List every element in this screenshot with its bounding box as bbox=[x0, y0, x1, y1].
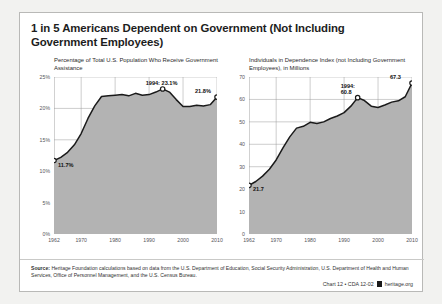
x-tick-label: 2000 bbox=[372, 237, 384, 243]
area-fill bbox=[249, 83, 412, 234]
chart-number: Chart 12 • CDA 12-02 bbox=[323, 281, 374, 287]
chart-svg bbox=[249, 77, 412, 234]
x-tick-label: 1962 bbox=[48, 237, 60, 243]
x-tick-label: 1980 bbox=[109, 237, 121, 243]
y-tick-label: 50 bbox=[239, 119, 245, 125]
data-annotation: 11.7% bbox=[58, 162, 74, 169]
area-fill bbox=[54, 89, 217, 234]
data-annotation: 67.3 bbox=[390, 74, 401, 81]
y-tick-label: 25% bbox=[40, 74, 50, 80]
x-tick-label: 1990 bbox=[143, 237, 155, 243]
x-tick-label: 1990 bbox=[338, 237, 350, 243]
y-tick-label: 40 bbox=[239, 141, 245, 147]
chart-credit: Chart 12 • CDA 12-02 heritage.org bbox=[323, 281, 413, 287]
y-tick-label: 5% bbox=[43, 200, 51, 206]
y-tick-label: 70 bbox=[239, 74, 245, 80]
y-tick-label: 10 bbox=[239, 209, 245, 215]
y-tick-label: 20 bbox=[239, 186, 245, 192]
source-note: Source: Heritage Foundation calculations… bbox=[31, 265, 411, 279]
data-annotation: 1994: 23.1% bbox=[146, 80, 178, 87]
data-point-marker bbox=[249, 183, 251, 187]
individuals-chart-panel: Individuals in Dependence Index (not Inc… bbox=[225, 57, 417, 257]
data-annotation: 1994:60.8 bbox=[341, 83, 355, 96]
y-tick-label: 10% bbox=[40, 168, 50, 174]
x-tick-label: 2010 bbox=[211, 237, 223, 243]
data-point-marker bbox=[215, 95, 217, 99]
page-background: 1 in 5 Americans Dependent on Government… bbox=[0, 0, 442, 304]
percentage-chart-plot: 11.7%1994: 23.1%21.8% bbox=[54, 77, 217, 234]
individuals-chart-x-axis: 196219701980199020002010 bbox=[249, 237, 412, 249]
x-tick-label: 1970 bbox=[75, 237, 87, 243]
heritage-site-label: heritage.org bbox=[385, 281, 413, 287]
page-title: 1 in 5 Americans Dependent on Government… bbox=[31, 22, 391, 49]
charts-container: Percentage of Total U.S. Population Who … bbox=[20, 57, 424, 257]
x-tick-label: 1962 bbox=[243, 237, 255, 243]
data-point-marker bbox=[355, 95, 359, 99]
individuals-chart-plot: 21.71994:60.867.3 bbox=[249, 77, 412, 234]
x-tick-label: 1970 bbox=[270, 237, 282, 243]
percentage-chart-subtitle: Percentage of Total U.S. Population Who … bbox=[54, 57, 219, 72]
source-text: Heritage Foundation calculations based o… bbox=[31, 265, 409, 278]
y-tick-label: 20% bbox=[40, 105, 50, 111]
chart-card: 1 in 5 Americans Dependent on Government… bbox=[19, 12, 423, 292]
individuals-chart-y-axis: 010203040506070 bbox=[225, 77, 247, 234]
x-tick-label: 2000 bbox=[177, 237, 189, 243]
y-tick-label: 15% bbox=[40, 137, 50, 143]
percentage-chart-y-axis: 0%5%10%15%20%25% bbox=[30, 77, 52, 234]
data-annotation: 21.7 bbox=[253, 186, 264, 193]
data-point-marker bbox=[54, 158, 56, 162]
data-annotation: 21.8% bbox=[195, 88, 211, 95]
x-tick-label: 2010 bbox=[406, 237, 418, 243]
data-point-marker bbox=[410, 81, 412, 85]
y-tick-label: 30 bbox=[239, 164, 245, 170]
y-tick-label: 60 bbox=[239, 96, 245, 102]
source-label: Source: bbox=[31, 265, 50, 271]
chart-svg bbox=[54, 77, 217, 234]
percentage-chart-panel: Percentage of Total U.S. Population Who … bbox=[30, 57, 222, 257]
x-tick-label: 1980 bbox=[304, 237, 316, 243]
individuals-chart-subtitle: Individuals in Dependence Index (not Inc… bbox=[249, 57, 414, 72]
chart-footer: Source: Heritage Foundation calculations… bbox=[20, 259, 424, 294]
heritage-mark-icon bbox=[377, 281, 382, 287]
data-point-marker bbox=[160, 87, 164, 91]
percentage-chart-x-axis: 196219701980199020002010 bbox=[54, 237, 217, 249]
